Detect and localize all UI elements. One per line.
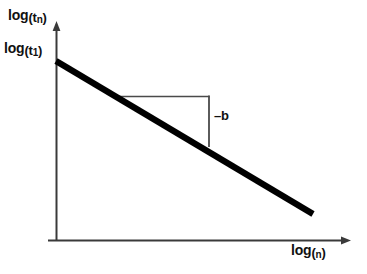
y-axis-label-subscript: n xyxy=(37,14,43,25)
y-intercept-label-close-paren: ) xyxy=(38,43,42,58)
y-intercept-label: log(t1) xyxy=(4,41,42,55)
x-axis-label-close-paren: ) xyxy=(321,245,325,260)
x-axis-label-open-paren: ( xyxy=(311,245,315,260)
y-axis xyxy=(53,21,61,241)
y-axis-arrowhead xyxy=(53,21,61,31)
plot-canvas xyxy=(0,0,367,274)
power-law-line xyxy=(56,61,313,214)
y-axis-label: log(tn) xyxy=(8,8,47,22)
y-axis-label-open-paren: (t xyxy=(28,10,36,25)
y-intercept-label-base: log xyxy=(4,40,24,56)
x-axis-label: log(n) xyxy=(291,243,326,257)
y-axis-label-close-paren: ) xyxy=(43,10,47,25)
y-intercept-label-open-paren: (t xyxy=(24,43,32,58)
x-axis-label-base: log xyxy=(291,242,311,258)
log-log-plot-figure: log(tn) log(t1) log(n) –b xyxy=(0,0,367,274)
x-axis-arrowhead xyxy=(341,237,351,245)
slope-label: –b xyxy=(214,109,229,122)
y-axis-label-base: log xyxy=(8,7,28,23)
